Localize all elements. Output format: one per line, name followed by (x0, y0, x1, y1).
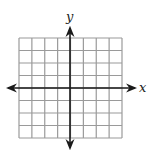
coordinate-plane: x y (0, 0, 151, 155)
x-axis-label: x (139, 80, 147, 95)
y-axis-label: y (65, 9, 74, 24)
